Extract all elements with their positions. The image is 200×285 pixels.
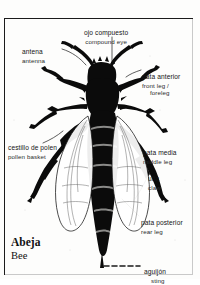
label-cestillo-de-polen: cestillo de polen pollen basket — [8, 137, 57, 161]
label-pata-posterior-en: rear leg — [141, 229, 183, 236]
label-una-en: claw — [148, 185, 161, 192]
label-cestillo-de-polen-en: pollen basket — [8, 154, 57, 161]
label-pata-media-es: pata media — [143, 149, 177, 156]
label-aguijon-en: sting — [144, 278, 166, 285]
caption-title-es: Abeja — [11, 236, 40, 250]
label-antena-es: antena — [22, 48, 43, 55]
label-una: uña claw — [148, 168, 161, 192]
label-pata-anterior-es: pata anterior — [142, 73, 180, 80]
caption-title-en: Bee — [11, 250, 40, 262]
label-cestillo-de-polen-es: cestillo de polen — [8, 144, 57, 151]
label-pata-anterior: pata anterior front leg / foreleg — [142, 66, 180, 96]
label-aguijon-es: aguijón — [144, 268, 166, 275]
label-pata-posterior: pata posterior rear leg — [141, 212, 183, 236]
label-antena: antena antenna — [22, 41, 45, 65]
label-ojo-compuesto-en: compound eye — [84, 39, 128, 46]
label-pata-anterior-en2: foreleg — [142, 90, 180, 97]
label-aguijon: aguijón sting — [144, 261, 166, 285]
plate-caption: Abeja Bee — [11, 236, 40, 262]
label-pata-posterior-es: pata posterior — [141, 219, 183, 226]
label-pata-media: pata media middle leg — [143, 142, 177, 166]
label-pata-media-en: middle leg — [143, 159, 177, 166]
label-antena-en: antenna — [22, 58, 45, 65]
label-una-es: uña — [148, 175, 159, 182]
label-ojo-compuesto-es: ojo compuesto — [84, 29, 128, 36]
label-ojo-compuesto: ojo compuesto compound eye — [84, 22, 128, 46]
